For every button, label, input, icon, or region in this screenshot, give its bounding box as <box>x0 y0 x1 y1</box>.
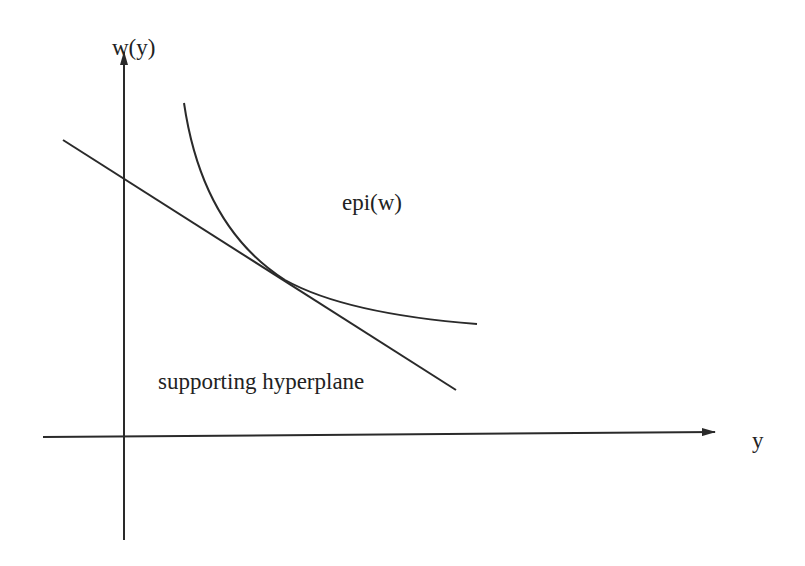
x-axis <box>43 432 715 437</box>
supporting-hyperplane-line <box>63 140 456 390</box>
supporting-hyperplane-label: supporting hyperplane <box>158 370 364 393</box>
epigraph-label: epi(w) <box>342 191 402 214</box>
horizontal-axis-label: y <box>752 429 764 452</box>
vertical-axis-label: w(y) <box>112 36 155 59</box>
diagram-canvas <box>0 0 805 566</box>
convex-function-curve <box>184 103 477 324</box>
